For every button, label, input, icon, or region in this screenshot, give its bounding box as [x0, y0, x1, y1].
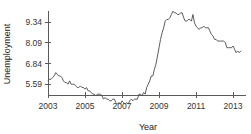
unemployment-chart: 5.596.848.099.34 20032005200720092011201…: [0, 0, 251, 134]
x-tick-label: 2009: [150, 101, 169, 111]
chart-canvas: 5.596.848.099.34 20032005200720092011201…: [0, 0, 251, 134]
x-tick-label: 2005: [76, 101, 95, 111]
y-tick-label: 8.09: [25, 38, 42, 48]
y-tick-labels: 5.596.848.099.34: [25, 17, 42, 89]
x-tick-label: 2011: [187, 101, 206, 111]
unemployment-line: [48, 11, 241, 104]
y-axis-title: Unemployment: [2, 23, 12, 84]
x-tick-labels: 200320052007200920112013: [39, 101, 243, 111]
y-tick-label: 9.34: [25, 17, 42, 27]
x-axis-title: Year: [139, 122, 157, 132]
y-tick-label: 5.59: [25, 79, 42, 89]
y-axis-group: 5.596.848.099.34: [25, 11, 51, 95]
x-tick-label: 2013: [224, 101, 243, 111]
x-tick-label: 2003: [39, 101, 58, 111]
y-tick-label: 6.84: [25, 59, 42, 69]
